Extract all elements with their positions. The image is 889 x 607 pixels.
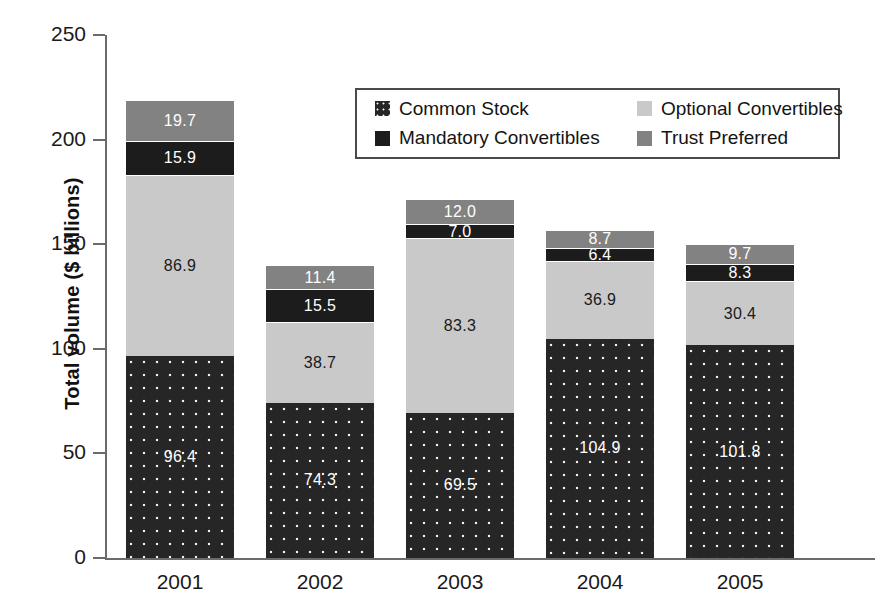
x-axis-label-2003: 2003 (405, 570, 515, 594)
x-axis-label-2005: 2005 (685, 570, 795, 594)
bar-value-label: 83.3 (444, 318, 476, 334)
bar-value-label: 101.8 (719, 444, 761, 460)
x-axis-line (105, 558, 875, 560)
y-axis-tick (93, 348, 105, 350)
bar-value-label: 7.0 (448, 224, 471, 240)
bar-segment-2003-trust-preferred[interactable]: 12.0 (406, 199, 514, 224)
bar-2001[interactable]: 96.486.915.919.7 (126, 100, 234, 558)
bar-segment-2002-trust-preferred[interactable]: 11.4 (266, 265, 374, 289)
bar-segment-2003-mandatory-convertibles[interactable]: 7.0 (406, 224, 514, 239)
bar-segment-2004-mandatory-convertibles[interactable]: 6.4 (546, 248, 654, 261)
bar-segment-2005-trust-preferred[interactable]: 9.7 (686, 244, 794, 264)
y-axis-tick-label: 0 (16, 545, 86, 569)
bar-value-label: 69.5 (444, 477, 476, 493)
bar-2004[interactable]: 104.936.96.48.7 (546, 230, 654, 558)
legend-swatch-icon (375, 131, 390, 146)
bar-value-label: 15.5 (304, 298, 336, 314)
bar-value-label: 36.9 (584, 292, 616, 308)
y-axis-tick (93, 452, 105, 454)
x-axis-label-2002: 2002 (265, 570, 375, 594)
legend-label: Optional Convertibles (661, 98, 843, 120)
bar-segment-2004-trust-preferred[interactable]: 8.7 (546, 230, 654, 248)
legend-item-common-stock[interactable]: Common Stock (375, 98, 637, 120)
x-axis-label-2001: 2001 (125, 570, 235, 594)
bar-segment-2002-optional-convertibles[interactable]: 38.7 (266, 322, 374, 403)
bar-value-label: 74.3 (304, 472, 336, 488)
bar-value-label: 6.4 (588, 247, 611, 263)
bar-segment-2002-common-stock[interactable]: 74.3 (266, 403, 374, 558)
legend-label: Trust Preferred (661, 127, 788, 149)
bar-segment-2005-common-stock[interactable]: 101.8 (686, 345, 794, 558)
bar-segment-2003-optional-convertibles[interactable]: 83.3 (406, 238, 514, 412)
legend-swatch-icon (375, 101, 390, 116)
bar-value-label: 104.9 (579, 440, 621, 456)
bar-value-label: 12.0 (444, 204, 476, 220)
bar-2003[interactable]: 69.583.37.012.0 (406, 199, 514, 558)
stacked-bar-chart: Total volume ($ billions) 05010015020025… (0, 0, 889, 607)
legend-label: Mandatory Convertibles (399, 127, 600, 149)
legend-item-mandatory-convertibles[interactable]: Mandatory Convertibles (375, 127, 637, 149)
bar-value-label: 15.9 (164, 150, 196, 166)
bar-segment-2004-optional-convertibles[interactable]: 36.9 (546, 261, 654, 338)
y-axis-tick (93, 34, 105, 36)
bar-value-label: 30.4 (724, 306, 756, 322)
bar-2005[interactable]: 101.830.48.39.7 (686, 244, 794, 558)
y-axis-tick-label: 150 (16, 231, 86, 255)
bar-value-label: 11.4 (304, 270, 335, 286)
bar-value-label: 96.4 (164, 449, 196, 465)
bar-segment-2005-mandatory-convertibles[interactable]: 8.3 (686, 264, 794, 281)
y-axis-line (105, 35, 107, 560)
y-axis-tick-label: 50 (16, 440, 86, 464)
y-axis-tick-label: 250 (16, 22, 86, 46)
chart-legend: Common StockOptional ConvertiblesMandato… (355, 88, 840, 159)
bar-segment-2003-common-stock[interactable]: 69.5 (406, 413, 514, 558)
legend-item-optional-convertibles[interactable]: Optional Convertibles (637, 98, 843, 120)
bar-value-label: 8.7 (588, 231, 611, 247)
y-axis-tick (93, 243, 105, 245)
bar-value-label: 9.7 (728, 246, 751, 262)
legend-label: Common Stock (399, 98, 529, 120)
y-axis-tick-label: 200 (16, 127, 86, 151)
legend-swatch-icon (637, 131, 652, 146)
x-axis-label-2004: 2004 (545, 570, 655, 594)
bar-segment-2001-common-stock[interactable]: 96.4 (126, 356, 234, 558)
bar-segment-2001-optional-convertibles[interactable]: 86.9 (126, 175, 234, 357)
bar-value-label: 86.9 (164, 258, 196, 274)
y-axis-tick (93, 557, 105, 559)
legend-item-trust-preferred[interactable]: Trust Preferred (637, 127, 843, 149)
bar-value-label: 8.3 (728, 265, 751, 281)
bar-segment-2002-mandatory-convertibles[interactable]: 15.5 (266, 289, 374, 321)
bar-2002[interactable]: 74.338.715.511.4 (266, 265, 374, 558)
bar-value-label: 38.7 (304, 355, 336, 371)
y-axis-tick-label: 100 (16, 336, 86, 360)
y-axis-title: Total volume ($ billions) (61, 144, 84, 444)
bar-segment-2005-optional-convertibles[interactable]: 30.4 (686, 281, 794, 345)
legend-swatch-icon (637, 101, 652, 116)
y-axis-tick (93, 139, 105, 141)
bar-segment-2001-mandatory-convertibles[interactable]: 15.9 (126, 141, 234, 174)
bar-value-label: 19.7 (164, 113, 196, 129)
bar-segment-2001-trust-preferred[interactable]: 19.7 (126, 100, 234, 141)
bar-segment-2004-common-stock[interactable]: 104.9 (546, 339, 654, 558)
